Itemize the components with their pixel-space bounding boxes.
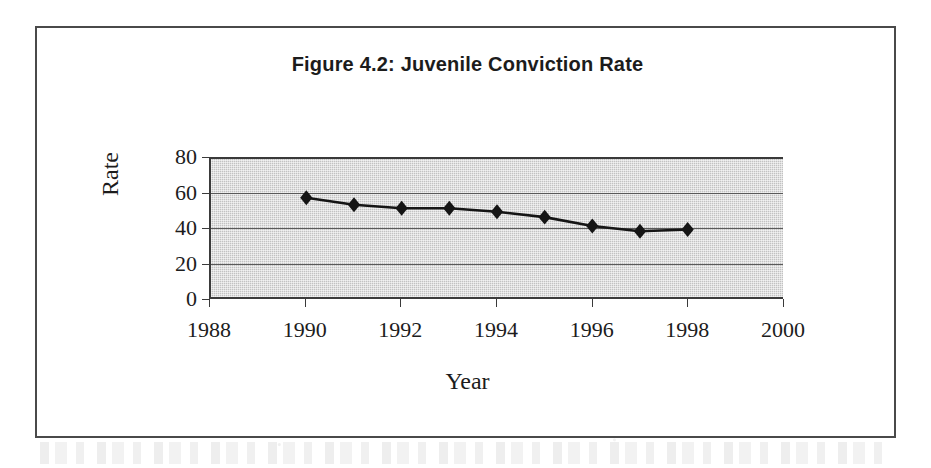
plot-wrap: 020406080 1988199019921994199619982000	[209, 157, 783, 299]
page-bleed-through-text	[40, 442, 890, 464]
data-series-line	[211, 157, 783, 299]
x-axis-tick	[305, 299, 306, 307]
x-axis-title: Year	[37, 368, 898, 395]
x-axis-tick	[687, 299, 688, 307]
y-axis-tick	[202, 264, 209, 265]
data-point-marker	[634, 224, 646, 239]
y-axis-tick-label: 60	[175, 180, 197, 206]
x-axis-tick	[496, 299, 497, 307]
data-point-marker	[300, 190, 312, 205]
x-axis-tick-label: 1998	[665, 317, 709, 343]
x-axis-tick	[592, 299, 593, 307]
data-point-marker	[586, 219, 598, 234]
y-axis-tick	[202, 228, 209, 229]
x-axis-tick-label: 1996	[570, 317, 614, 343]
y-axis-tick	[202, 157, 209, 158]
chart-title: Figure 4.2: Juvenile Conviction Rate	[37, 53, 898, 76]
x-axis-tick	[783, 299, 784, 307]
data-point-marker	[443, 201, 455, 216]
figure-frame: Figure 4.2: Juvenile Conviction Rate Rat…	[35, 26, 896, 438]
x-axis-tick-label: 1994	[474, 317, 518, 343]
y-axis-title: Rate	[97, 152, 124, 196]
y-axis-tick-label: 0	[186, 286, 197, 312]
x-axis-tick-label: 1988	[187, 317, 231, 343]
x-axis-tick-label: 1992	[378, 317, 422, 343]
y-axis-tick-label: 80	[175, 144, 197, 170]
y-axis-tick-label: 20	[175, 251, 197, 277]
x-axis-tick-label: 2000	[761, 317, 805, 343]
data-point-marker	[396, 201, 408, 216]
data-point-marker	[682, 222, 694, 237]
x-axis-tick	[400, 299, 401, 307]
y-axis-tick	[202, 193, 209, 194]
x-axis-tick	[209, 299, 210, 307]
x-axis-tick-label: 1990	[283, 317, 327, 343]
plot-area	[209, 157, 783, 299]
data-point-marker	[491, 204, 503, 219]
data-point-marker	[348, 197, 360, 212]
data-point-marker	[539, 210, 551, 225]
y-axis-tick	[202, 299, 209, 300]
y-axis-tick-label: 40	[175, 215, 197, 241]
